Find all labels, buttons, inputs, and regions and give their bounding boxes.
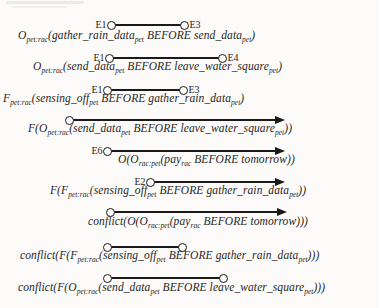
interval-start-point [65, 116, 74, 125]
interval-line [111, 246, 179, 248]
norm-interval-diagram: E1 E3 Opet:rac(gather_rain_datapet BEFOR… [0, 0, 379, 308]
interval-line [73, 119, 276, 121]
interval-start-point [107, 21, 116, 30]
interval-start-point [103, 243, 112, 252]
interval-start-point [103, 274, 112, 283]
interval-end-point [180, 21, 189, 30]
interval-end-point [218, 54, 227, 63]
event-start-label: E6 [91, 145, 103, 156]
interval-end-point [179, 86, 188, 95]
formula: F(Fpet:rac(sensing_offpet BEFORE gather_… [50, 184, 306, 197]
interval-start-point [103, 147, 112, 156]
interval-start-point [106, 208, 115, 217]
interval-line [114, 211, 278, 213]
interval-end-point [219, 274, 228, 283]
formula: conflict(F(Opet:rac(send_datapet BEFORE … [18, 281, 325, 294]
interval-line [111, 277, 220, 279]
interval-line [154, 181, 276, 183]
formula: Opet:rac(send_datapet BEFORE leave_water… [33, 60, 282, 73]
interval-end-point [178, 243, 187, 252]
scan-artifact [6, 1, 84, 4]
formula: conflict(F(Fpet:rac(sensing_offpet BEFOR… [20, 249, 319, 262]
interval-line [115, 24, 181, 26]
scan-artifact [12, 6, 67, 8]
formula: conflict(O(Orac:pet(payrac BEFORE tomorr… [88, 215, 308, 228]
interval-start-point [105, 54, 114, 63]
interval-start-point [103, 86, 112, 95]
interval-line [113, 57, 219, 59]
formula: Fpet:rac(sensing_offpet BEFORE gather_ra… [3, 92, 244, 105]
formula: O(Orac:pet(payrac BEFORE tomorrow)) [118, 153, 295, 166]
interval-line [111, 89, 180, 91]
interval-line [111, 150, 276, 152]
formula: Opet:rac(gather_rain_datapet BEFORE send… [18, 29, 255, 42]
interval-start-point [146, 178, 155, 187]
